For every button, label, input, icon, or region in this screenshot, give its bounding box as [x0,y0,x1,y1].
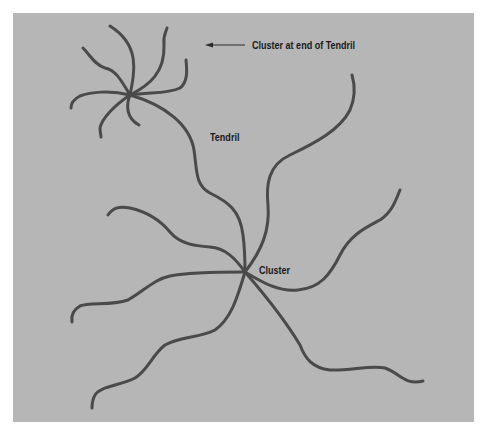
main-cluster-strand [245,75,354,272]
cluster-end-label: Cluster at end of Tendril [252,39,355,51]
end-cluster [71,26,187,137]
end-cluster-strand [83,48,130,95]
main-cluster-strand [72,272,245,322]
main-cluster-strand [245,272,423,382]
tendril-edge [130,95,245,272]
cluster-tendril-diagram [0,0,486,433]
main-cluster-strand [108,207,245,272]
main-cluster [72,75,423,408]
end-cluster-strand [128,95,139,125]
end-cluster-strand [130,28,167,95]
cluster-label: Cluster [259,264,290,276]
end-cluster-strand [100,95,130,137]
tendril-label: Tendril [210,131,239,143]
end-cluster-strand [110,26,134,95]
pointer-arrow [205,43,245,48]
main-cluster-strand [92,272,245,408]
